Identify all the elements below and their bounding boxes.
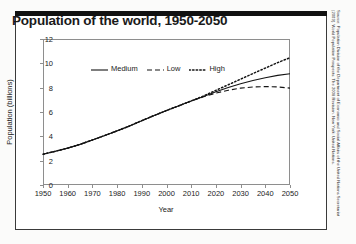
x-tick-label: 1960	[59, 189, 76, 198]
x-tick-mark	[142, 185, 143, 188]
low-line-key	[147, 66, 164, 72]
x-tick-mark	[92, 185, 93, 188]
page-title: Population of the world, 1950-2050	[12, 13, 227, 28]
x-tick-label: 2040	[257, 189, 274, 198]
legend-item: Medium	[91, 65, 138, 73]
x-tick-label: 2050	[282, 189, 299, 198]
x-tick-mark	[290, 185, 291, 188]
legend: MediumLowHigh	[91, 65, 225, 73]
series-line-medium	[43, 74, 290, 155]
x-tick-mark	[68, 185, 69, 188]
x-tick-label: 2010	[183, 189, 200, 198]
y-axis-label: Population (billions)	[5, 79, 14, 144]
medium-line-key	[91, 66, 108, 72]
x-tick-mark	[43, 185, 44, 188]
plot-area: 024681012 195019601970198019902000201020…	[43, 39, 305, 199]
x-tick-mark	[216, 185, 217, 188]
x-tick-mark	[191, 185, 192, 188]
legend-item: High	[189, 65, 224, 73]
x-tick-label: 1970	[84, 189, 101, 198]
x-tick-mark	[167, 185, 168, 188]
x-tick-label: 1980	[109, 189, 126, 198]
x-tick-mark	[241, 185, 242, 188]
series-lines	[43, 39, 290, 185]
legend-label: Medium	[111, 65, 138, 73]
x-tick-label: 2020	[208, 189, 225, 198]
x-tick-mark	[117, 185, 118, 188]
source-note: Source: Population Division of the Depar…	[331, 10, 341, 220]
x-axis-label: Year	[158, 205, 173, 214]
x-tick-label: 1950	[35, 189, 52, 198]
x-tick-label: 2000	[158, 189, 175, 198]
legend-label: Low	[167, 65, 181, 73]
x-tick-mark	[265, 185, 266, 188]
x-tick-label: 1990	[133, 189, 150, 198]
figure-root: Population of the world, 1950-2050 02468…	[0, 0, 356, 244]
legend-label: High	[209, 65, 224, 73]
legend-item: Low	[147, 65, 181, 73]
high-line-key	[189, 66, 206, 72]
x-tick-label: 2030	[232, 189, 249, 198]
